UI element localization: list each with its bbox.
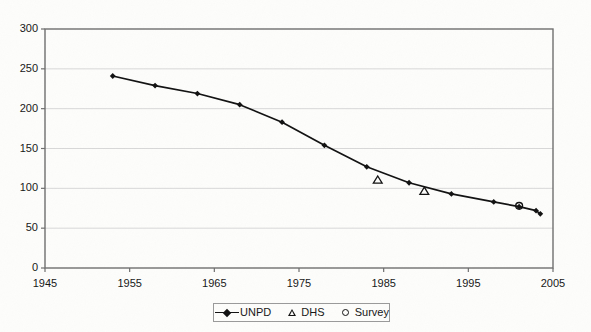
y-tick-label: 50 [6,222,38,233]
triangle-marker-icon [283,307,301,319]
data-point-unpd [449,191,455,197]
y-tick-label: 0 [6,262,38,273]
x-tick-label: 2005 [529,278,577,289]
chart-container: 050100150200250300 194519551965197519851… [0,0,591,332]
legend-label-dhs: DHS [301,307,324,318]
legend-label-unpd: UNPD [240,307,271,318]
y-tick-label: 150 [6,143,38,154]
data-point-unpd [491,199,497,205]
data-point-unpd [152,83,158,89]
chart-legend: UNPD DHS Survey [213,303,390,322]
legend-item-dhs: DHS [283,304,324,321]
x-tick-label: 1975 [275,278,323,289]
legend-spacer [271,312,283,313]
legend-label-survey: Survey [355,307,389,318]
y-tick-label: 100 [6,182,38,193]
y-tick-label: 250 [6,63,38,74]
data-point-unpd [237,102,243,108]
circle-marker-icon [337,307,355,319]
y-tick-label: 200 [6,103,38,114]
y-tick-label: 300 [6,23,38,34]
data-point-unpd [195,91,201,97]
legend-item-survey: Survey [337,304,389,321]
x-tick-label: 1945 [21,278,69,289]
x-tick-label: 1965 [190,278,238,289]
data-point-unpd [110,73,116,79]
x-tick-label: 1995 [444,278,492,289]
x-tick-label: 1955 [106,278,154,289]
data-point-dhs [373,176,382,183]
line-diamond-marker-icon [214,307,240,319]
x-tick-label: 1985 [360,278,408,289]
legend-item-unpd: UNPD [214,304,271,321]
data-point-unpd [406,180,412,186]
data-point-unpd [364,164,370,170]
legend-spacer [325,312,337,313]
